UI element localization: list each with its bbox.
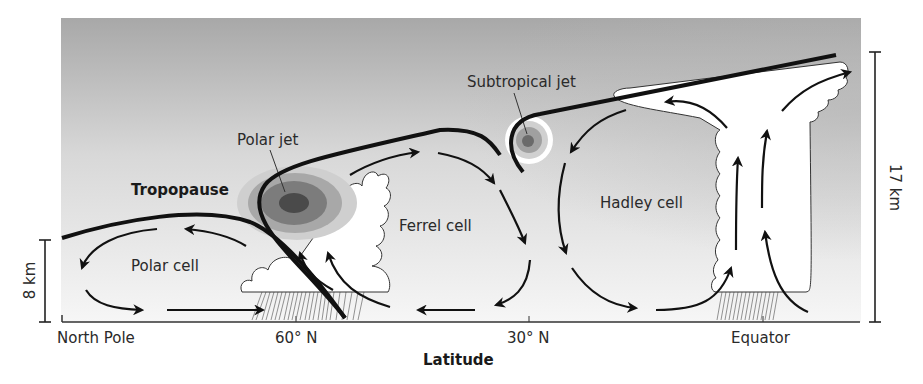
polar-jet-label: Polar jet [237,133,298,148]
tick-30n: 30° N [507,331,550,346]
ferrel-cell-label: Ferrel cell [399,219,472,234]
scale-bar-17km [869,52,881,322]
scale-bar-8km [39,240,51,322]
subtropical-jet-label: Subtropical jet [467,75,576,90]
scale-label-8km: 8 km [23,262,38,300]
tick-equator: Equator [731,331,790,346]
x-axis-title: Latitude [423,353,494,368]
tick-north-pole: North Pole [57,331,135,346]
scale-label-17km: 17 km [887,164,902,211]
polar-jet-icon [237,166,357,240]
polar-cell-label: Polar cell [131,259,199,274]
tropopause-label: Tropopause [131,183,229,198]
hadley-cell-label: Hadley cell [600,196,683,211]
tick-60n: 60° N [275,331,318,346]
